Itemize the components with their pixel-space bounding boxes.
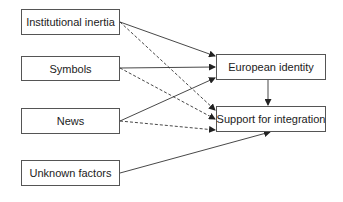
edge-news-to-support — [120, 121, 215, 130]
node-news: News — [21, 108, 120, 134]
node-support-for-integration: Support for integration — [216, 106, 326, 132]
edge-symbols-to-identity — [120, 67, 215, 68]
node-institutional-inertia: Institutional inertia — [21, 9, 120, 35]
edge-symbols-to-support — [120, 68, 215, 119]
node-label: Unknown factors — [30, 167, 112, 179]
edge-news-to-identity — [120, 78, 215, 121]
node-european-identity: European identity — [216, 54, 326, 80]
node-label: Support for integration — [217, 113, 326, 125]
node-unknown-factors: Unknown factors — [21, 160, 120, 186]
node-label: European identity — [228, 61, 314, 73]
node-label: News — [57, 115, 85, 127]
node-label: Institutional inertia — [26, 16, 115, 28]
edge-inertia-to-support — [120, 22, 215, 110]
node-label: Symbols — [49, 63, 91, 75]
node-symbols: Symbols — [21, 56, 120, 81]
edge-unknown-to-support — [120, 132, 270, 173]
edge-inertia-to-identity — [120, 22, 215, 56]
